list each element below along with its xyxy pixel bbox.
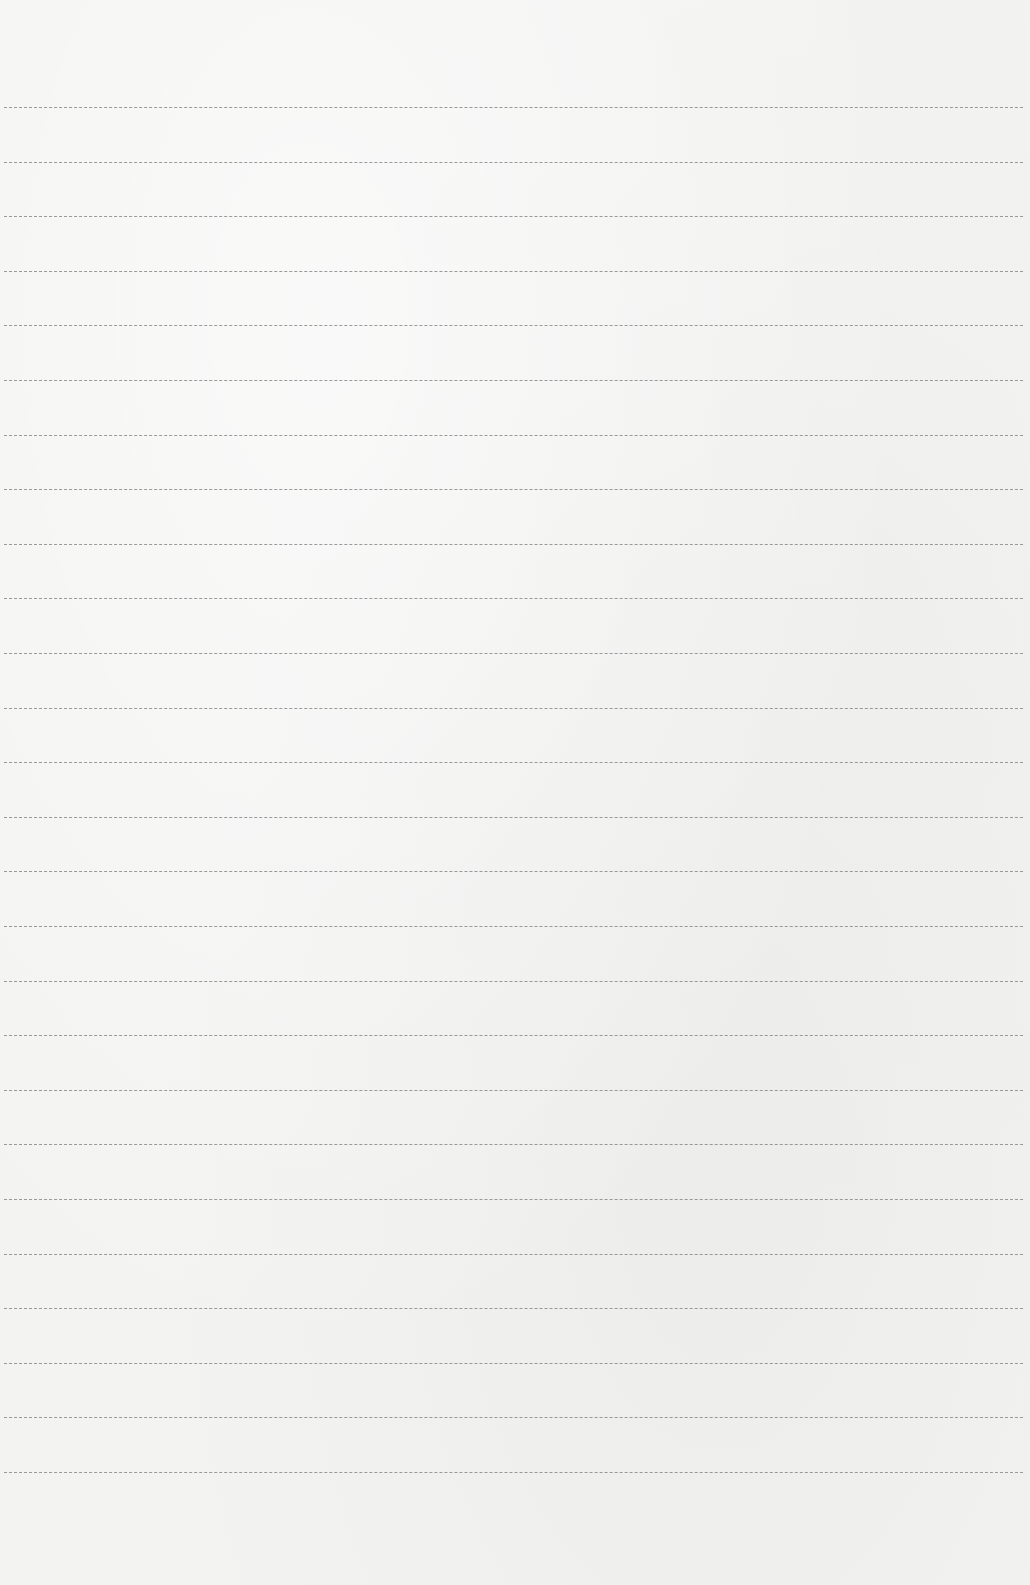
ruled-line [4, 1199, 1023, 1200]
ruled-line [4, 981, 1023, 982]
ruled-line [4, 1035, 1023, 1036]
ruled-line [4, 1254, 1023, 1255]
ruled-line [4, 1417, 1023, 1418]
ruled-line [4, 708, 1023, 709]
ruled-line [4, 1144, 1023, 1145]
ruled-line [4, 435, 1023, 436]
ruled-line [4, 1308, 1023, 1309]
ruled-line [4, 325, 1023, 326]
ruled-line [4, 1472, 1023, 1473]
ruled-line [4, 216, 1023, 217]
ruled-line [4, 653, 1023, 654]
ruled-line [4, 271, 1023, 272]
ruled-line [4, 817, 1023, 818]
ruled-line [4, 762, 1023, 763]
ruled-line [4, 107, 1023, 108]
ruled-line [4, 489, 1023, 490]
ruled-line [4, 926, 1023, 927]
ruled-line [4, 871, 1023, 872]
ruled-line [4, 544, 1023, 545]
ruled-line [4, 1090, 1023, 1091]
ruled-line [4, 380, 1023, 381]
ruled-line [4, 1363, 1023, 1364]
lined-paper [0, 0, 1030, 1585]
ruled-line [4, 598, 1023, 599]
ruled-line [4, 162, 1023, 163]
